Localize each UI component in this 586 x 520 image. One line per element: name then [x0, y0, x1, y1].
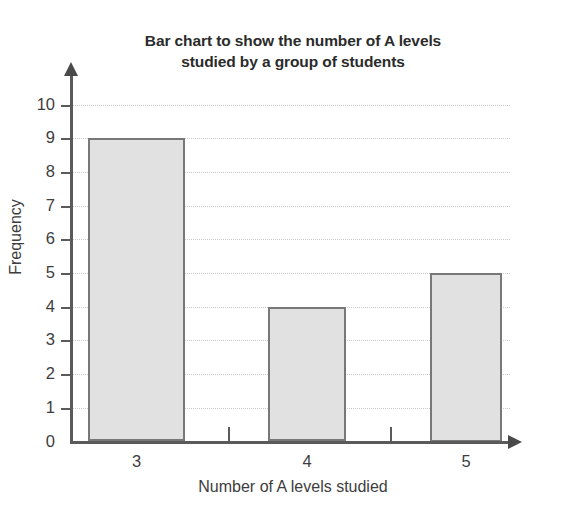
- y-axis-tick-label: 3: [22, 331, 55, 347]
- y-axis-tick-label: 5: [22, 264, 55, 280]
- y-axis-tick-label: 10: [22, 96, 55, 112]
- bar: [88, 138, 185, 441]
- y-axis-tick-label: 8: [22, 163, 55, 179]
- y-axis-title: Frequency: [7, 177, 25, 297]
- y-axis-tick-label: 4: [22, 298, 55, 314]
- bar: [268, 307, 346, 442]
- x-axis-arrow-icon: [508, 435, 522, 449]
- y-axis-tick-label: 9: [22, 129, 55, 145]
- x-axis-title: Number of A levels studied: [0, 478, 586, 496]
- y-axis-line: [70, 73, 73, 443]
- y-axis-tick-label: 1: [22, 399, 55, 415]
- x-axis-tick: [390, 427, 392, 441]
- bar-chart: Bar chart to show the number of A levels…: [0, 0, 586, 520]
- y-axis-arrow-icon: [64, 62, 78, 76]
- gridline: [72, 105, 510, 106]
- x-axis-tick-label: 5: [436, 452, 496, 471]
- x-axis-line: [70, 441, 510, 444]
- bar: [430, 273, 502, 442]
- y-axis-tick-label: 6: [22, 230, 55, 246]
- y-axis-tick-label: 0: [22, 433, 55, 449]
- x-axis-tick-label: 3: [107, 452, 167, 471]
- y-axis-tick-label: 7: [22, 197, 55, 213]
- plot-area: 012345678910 345 Frequency Number of A l…: [0, 0, 586, 520]
- x-axis-tick-label: 4: [277, 452, 337, 471]
- y-axis-tick-label: 2: [22, 365, 55, 381]
- x-axis-tick: [228, 427, 230, 441]
